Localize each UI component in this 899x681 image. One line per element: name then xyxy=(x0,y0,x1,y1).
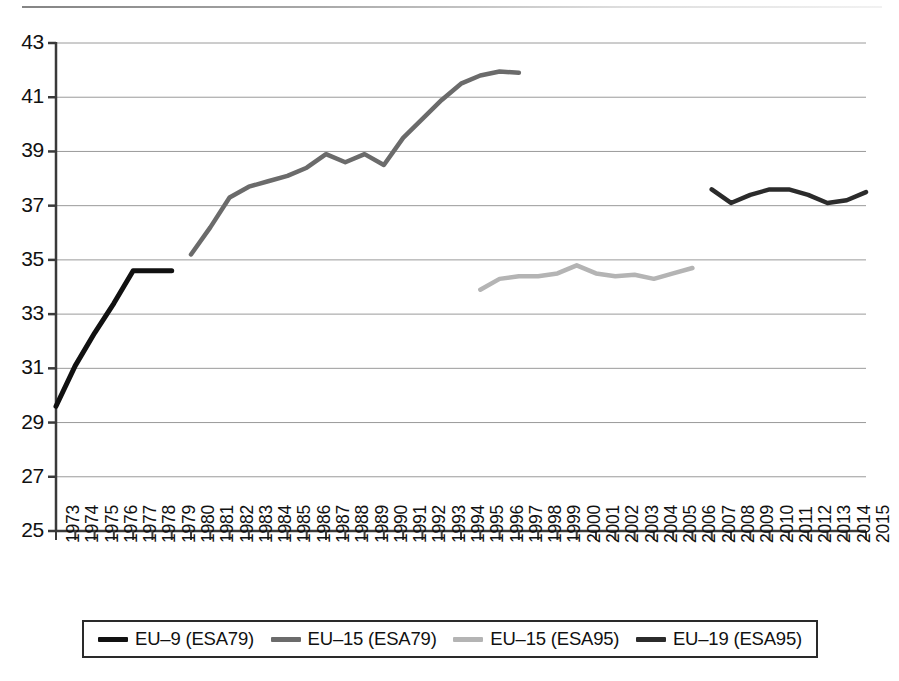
y-tick-label: 41 xyxy=(0,84,44,108)
x-tick-label: 2001 xyxy=(603,505,624,543)
legend-item: EU–19 (ESA95) xyxy=(636,628,802,650)
x-tick-label: 1983 xyxy=(256,505,277,543)
x-tick-label: 2000 xyxy=(584,505,605,543)
x-tick-label: 1996 xyxy=(507,505,528,543)
x-tick-label: 2006 xyxy=(699,505,720,543)
x-tick-label: 2013 xyxy=(834,505,855,543)
y-tick-label: 31 xyxy=(0,355,44,379)
x-tick-label: 1995 xyxy=(487,505,508,543)
legend-line-swatch-icon xyxy=(636,637,666,642)
x-tick-label: 2010 xyxy=(777,505,798,543)
y-tick-label: 35 xyxy=(0,247,44,271)
line-chart-plot xyxy=(0,0,899,681)
x-tick-label: 2015 xyxy=(873,505,894,543)
x-tick-label: 1981 xyxy=(217,505,238,543)
x-tick-label: 1979 xyxy=(179,505,200,543)
x-tick-label: 2014 xyxy=(854,505,875,543)
x-tick-label: 1984 xyxy=(275,505,296,543)
x-tick-label: 1987 xyxy=(333,505,354,543)
x-tick-label: 1999 xyxy=(564,505,585,543)
x-tick-label: 1975 xyxy=(102,505,123,543)
chart-figure: 25272931333537394143 1973197419751976197… xyxy=(0,0,899,681)
x-tick-label: 1978 xyxy=(159,505,180,543)
y-tick-label: 25 xyxy=(0,518,44,542)
y-tick-label: 39 xyxy=(0,138,44,162)
x-tick-label: 2004 xyxy=(661,505,682,543)
x-tick-label: 1988 xyxy=(352,505,373,543)
legend-label: EU–9 (ESA79) xyxy=(135,628,254,650)
series-line-3 xyxy=(480,265,692,289)
legend-line-swatch-icon xyxy=(98,637,128,642)
x-tick-label: 1994 xyxy=(468,505,489,543)
x-tick-label: 2011 xyxy=(796,506,817,543)
x-tick-label: 2003 xyxy=(642,505,663,543)
x-tick-label: 2002 xyxy=(622,505,643,543)
y-tick-label: 43 xyxy=(0,30,44,54)
x-tick-label: 1986 xyxy=(314,505,335,543)
series-line-4 xyxy=(712,189,866,203)
x-tick-label: 1973 xyxy=(63,505,84,543)
x-tick-label: 1977 xyxy=(140,505,161,543)
x-tick-label: 1974 xyxy=(82,505,103,543)
legend-line-swatch-icon xyxy=(271,637,301,642)
x-tick-label: 1989 xyxy=(372,505,393,543)
y-tick-label: 27 xyxy=(0,464,44,488)
x-tick-label: 1985 xyxy=(294,505,315,543)
x-tick-label: 1990 xyxy=(391,505,412,543)
x-tick-label: 2007 xyxy=(719,505,740,543)
x-tick-label: 2008 xyxy=(738,505,759,543)
y-tick-label: 37 xyxy=(0,193,44,217)
legend-item: EU–9 (ESA79) xyxy=(98,628,254,650)
x-tick-label: 1991 xyxy=(410,505,431,543)
legend-label: EU–19 (ESA95) xyxy=(673,628,802,650)
x-tick-label: 1980 xyxy=(198,505,219,543)
x-tick-label: 1998 xyxy=(545,505,566,543)
chart-legend: EU–9 (ESA79)EU–15 (ESA79)EU–15 (ESA95)EU… xyxy=(82,620,818,658)
x-tick-label: 1976 xyxy=(121,505,142,543)
y-tick-label: 33 xyxy=(0,301,44,325)
x-tick-label: 2005 xyxy=(680,505,701,543)
x-tick-label: 1992 xyxy=(429,505,450,543)
legend-item: EU–15 (ESA79) xyxy=(271,628,437,650)
legend-label: EU–15 (ESA79) xyxy=(308,628,437,650)
x-tick-label: 2012 xyxy=(815,505,836,543)
legend-label: EU–15 (ESA95) xyxy=(490,628,619,650)
series-line-2 xyxy=(191,71,519,254)
legend-item: EU–15 (ESA95) xyxy=(453,628,619,650)
x-tick-label: 1982 xyxy=(237,505,258,543)
x-tick-label: 1997 xyxy=(526,505,547,543)
x-tick-label: 2009 xyxy=(757,505,778,543)
legend-line-swatch-icon xyxy=(453,637,483,642)
y-tick-label: 29 xyxy=(0,410,44,434)
series-line-1 xyxy=(56,271,172,407)
x-tick-label: 1993 xyxy=(449,505,470,543)
